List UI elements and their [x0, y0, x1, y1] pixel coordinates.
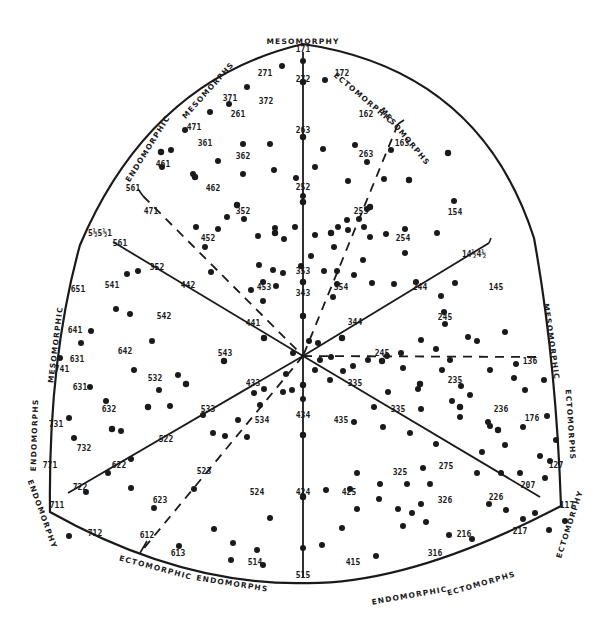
somatotype-label: 514 — [248, 558, 263, 567]
data-point — [427, 481, 433, 487]
data-point — [66, 533, 72, 539]
data-point — [371, 404, 377, 410]
axis-point — [183, 381, 189, 387]
somatotype-label: 623 — [153, 496, 168, 505]
data-point — [423, 519, 429, 525]
boundary-tick — [489, 238, 491, 243]
somatochart: 1712722711723713722614713623614611621632… — [0, 0, 606, 618]
somatotype-label: 522 — [159, 435, 174, 444]
data-point — [439, 367, 445, 373]
data-point — [210, 430, 216, 436]
data-point — [267, 141, 273, 147]
axis-point — [158, 149, 164, 155]
data-point — [376, 496, 382, 502]
data-point — [354, 506, 360, 512]
data-point — [300, 396, 306, 402]
somatotype-label: 271 — [258, 69, 273, 78]
data-point — [207, 109, 213, 115]
data-point — [87, 384, 93, 390]
somatotype-label: 335 — [348, 379, 363, 388]
axis-point — [300, 382, 306, 388]
data-point — [474, 470, 480, 476]
somatotype-label: 722 — [73, 483, 88, 492]
axis-point — [445, 150, 451, 156]
data-point — [156, 387, 162, 393]
data-points — [57, 58, 568, 568]
somatotype-label: 712 — [88, 529, 103, 538]
data-point — [485, 419, 491, 425]
somatotype-label: 353 — [296, 267, 311, 276]
somatotype-label: 162 — [359, 110, 374, 119]
data-point — [300, 193, 306, 199]
somatotype-label: 424 — [296, 488, 311, 497]
somatotype-label: 354 — [334, 283, 349, 292]
data-point — [361, 224, 367, 230]
vertex-label-mesomorphy: MESOMORPHY — [266, 37, 339, 46]
somatotype-label: 541 — [105, 281, 120, 290]
somatotype-label: 127 — [549, 461, 564, 470]
data-point — [128, 456, 134, 462]
somatotype-label: 632 — [102, 405, 117, 414]
somatotype-label: 542 — [157, 312, 172, 321]
data-point — [331, 244, 337, 250]
axis-point — [379, 358, 385, 364]
data-point — [434, 230, 440, 236]
data-point — [312, 164, 318, 170]
data-point — [350, 363, 356, 369]
somatotype-label: 261 — [231, 110, 246, 119]
data-point — [191, 486, 197, 492]
somatotype-label: 731 — [49, 420, 64, 429]
somatotype-label: 253 — [354, 207, 369, 216]
data-point — [312, 367, 318, 373]
somatotype-label: 171 — [296, 45, 311, 54]
data-point — [281, 236, 287, 242]
data-point — [289, 387, 295, 393]
somatotype-label: 771 — [43, 461, 58, 470]
somatotype-label: 651 — [71, 285, 86, 294]
somatotype-label: 435 — [334, 416, 349, 425]
divider-mesomorphic-ectomorph — [303, 356, 540, 357]
data-point — [292, 224, 298, 230]
data-point — [391, 281, 397, 287]
somatotype-label: 326 — [438, 496, 453, 505]
somatotype-label: 352 — [236, 207, 251, 216]
somatotype-label: 631 — [73, 383, 88, 392]
region-label-endomorphic-ectomorphs-2: ECTOMORPHS — [446, 569, 517, 597]
somatotype-label: 136 — [523, 357, 538, 366]
data-point — [367, 234, 373, 240]
data-point — [373, 553, 379, 559]
somatotype-label: 226 — [489, 493, 504, 502]
somatotype-label: 272 — [296, 75, 311, 84]
data-point — [433, 441, 439, 447]
chart-boundary — [50, 44, 561, 583]
region-label-mesomorphic-ectomorphs-2: ECTOMORPHS — [564, 389, 578, 460]
data-point — [240, 171, 246, 177]
data-point — [323, 487, 329, 493]
data-point — [351, 272, 357, 278]
data-point — [553, 437, 559, 443]
somatotype-label: 612 — [140, 531, 155, 540]
somatotype-label: 145 — [489, 283, 504, 292]
axis-point — [339, 335, 345, 341]
data-point — [354, 470, 360, 476]
data-point — [306, 338, 312, 344]
somatotype-label: 263 — [359, 150, 374, 159]
somatotype-label: 14½4½ — [462, 249, 486, 259]
region-label-endomorphic-mesomorphs-1: ENDOMORPHIC — [124, 114, 172, 184]
data-point — [283, 371, 289, 377]
data-point — [280, 270, 286, 276]
data-point — [395, 506, 401, 512]
data-point — [369, 280, 375, 286]
data-point — [280, 389, 286, 395]
data-point — [175, 372, 181, 378]
data-point — [537, 453, 543, 459]
data-point — [211, 526, 217, 532]
data-point — [479, 449, 485, 455]
data-point — [474, 338, 480, 344]
axis-point — [300, 432, 306, 438]
data-point — [151, 505, 157, 511]
data-point — [244, 84, 250, 90]
somatotype-label: 216 — [457, 530, 472, 539]
somatotype-label: 275 — [439, 462, 454, 471]
somatotype-label: 236 — [494, 405, 509, 414]
